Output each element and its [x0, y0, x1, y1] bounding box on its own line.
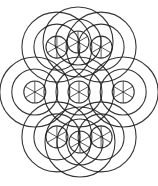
circle-group — [22, 12, 92, 82]
circle-group — [22, 102, 92, 172]
spoke-line — [79, 92, 89, 98]
circle-group — [0, 57, 70, 127]
circle-groups — [0, 7, 158, 177]
circle-group — [88, 57, 158, 127]
spoke-line — [47, 131, 57, 137]
spoke-line — [25, 87, 35, 93]
spoke-line — [57, 42, 67, 48]
spoke-line — [69, 37, 79, 43]
spoke-line — [35, 92, 45, 98]
rosette-drawing — [0, 0, 158, 186]
spoke-line — [80, 142, 90, 148]
spoke-line — [123, 92, 133, 98]
spoke-line — [47, 137, 57, 143]
spoke-line — [114, 87, 124, 93]
spoke-line — [114, 92, 124, 98]
circle-group — [45, 107, 115, 177]
spoke-line — [70, 87, 80, 93]
spoke-line — [80, 137, 90, 143]
spoke-line — [35, 87, 45, 93]
spoke-line — [92, 137, 102, 143]
spoke-line — [92, 131, 102, 137]
spoke-line — [70, 92, 80, 98]
spoke-line — [123, 87, 133, 93]
spoke-line — [69, 42, 79, 48]
circle-group — [66, 102, 136, 172]
spoke-line — [57, 47, 67, 53]
spoke-line — [92, 42, 102, 48]
spoke-line — [79, 87, 89, 93]
spoke-line — [101, 42, 111, 48]
circle-group — [43, 7, 113, 77]
circle-group — [66, 12, 136, 82]
spoke-line — [101, 47, 111, 53]
spoke-line — [57, 137, 67, 143]
spoke-line — [25, 92, 35, 98]
